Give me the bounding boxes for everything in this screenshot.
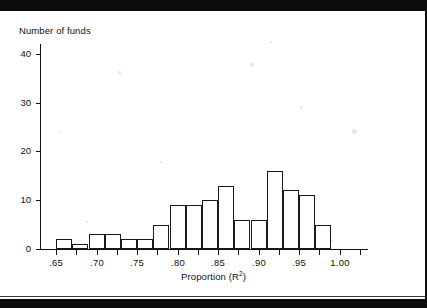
- x-tick-.85: [218, 250, 219, 255]
- histogram-bar: [202, 200, 218, 249]
- x-minor-tick-3: [198, 250, 199, 255]
- paper-speck-3: [160, 161, 162, 163]
- histogram-bar: [283, 190, 299, 249]
- y-tick-40: [36, 54, 40, 55]
- histogram-bar: [234, 220, 250, 249]
- y-tick-label-0: 0: [9, 243, 31, 254]
- y-tick-label-40: 40: [9, 48, 31, 59]
- histogram-bar: [56, 239, 72, 249]
- histogram-bar: [137, 239, 153, 249]
- x-tick-label-.90: .90: [244, 257, 274, 268]
- histogram-bar: [89, 234, 105, 249]
- histogram-bar: [315, 225, 331, 249]
- x-minor-tick-1: [117, 250, 118, 255]
- x-tick-label-.80: .80: [163, 257, 193, 268]
- y-tick-label-10: 10: [9, 194, 31, 205]
- histogram-bar: [299, 195, 315, 249]
- x-tick-label-.70: .70: [82, 257, 112, 268]
- y-tick-10: [36, 200, 40, 201]
- histogram-screenshot: Number of funds 010203040.65.70.75.80.85…: [0, 0, 427, 308]
- y-tick-label-30: 30: [9, 97, 31, 108]
- x-tick-label-.95: .95: [284, 257, 314, 268]
- x-minor-tick-5: [279, 250, 280, 255]
- x-tick-.70: [97, 250, 98, 255]
- x-minor-tick-7: [360, 250, 361, 255]
- y-tick-0: [36, 249, 40, 250]
- histogram-bar: [218, 186, 234, 249]
- histogram-bar: [72, 244, 88, 249]
- x-tick-.95: [299, 250, 300, 255]
- x-axis-title: Proportion (R2): [0, 271, 427, 282]
- x-axis-title-text: Proportion (R: [181, 271, 239, 282]
- x-tick-label-.65: .65: [41, 257, 71, 268]
- histogram-bar: [170, 205, 186, 249]
- x-tick-.75: [137, 250, 138, 255]
- figure-area: Number of funds 010203040.65.70.75.80.85…: [0, 11, 427, 299]
- paper-speck-0: [118, 71, 121, 74]
- y-tick-30: [36, 103, 40, 104]
- x-tick-1.00: [340, 250, 341, 255]
- x-tick-label-1.00: 1.00: [325, 257, 355, 268]
- x-minor-tick-2: [157, 250, 158, 255]
- plot-area: 010203040.65.70.75.80.85.90.951.00: [0, 11, 427, 299]
- y-tick-20: [36, 151, 40, 152]
- x-tick-.65: [56, 250, 57, 255]
- bottom-black-band: [0, 299, 427, 308]
- top-black-band: [0, 0, 427, 11]
- paper-speck-4: [352, 129, 357, 134]
- x-axis-title-close: ): [243, 271, 246, 282]
- x-minor-tick-0: [76, 250, 77, 255]
- paper-speck-1: [250, 63, 254, 67]
- x-tick-label-.75: .75: [122, 257, 152, 268]
- y-tick-label-20: 20: [9, 145, 31, 156]
- histogram-bar: [105, 234, 121, 249]
- x-minor-tick-6: [319, 250, 320, 255]
- paper-speck-8: [270, 41, 272, 43]
- histogram-bar: [267, 171, 283, 249]
- histogram-bar: [251, 220, 267, 249]
- paper-speck-6: [86, 221, 88, 223]
- x-minor-tick-4: [238, 250, 239, 255]
- histogram-bar: [121, 239, 137, 249]
- paper-speck-2: [300, 106, 303, 109]
- x-tick-label-.85: .85: [203, 257, 233, 268]
- paper-speck-9: [60, 131, 62, 133]
- x-tick-.80: [178, 250, 179, 255]
- x-tick-.90: [259, 250, 260, 255]
- y-axis-line: [40, 44, 41, 250]
- bottom-hairline-rule: [0, 296, 427, 297]
- histogram-bar: [153, 225, 169, 249]
- histogram-bar: [186, 205, 202, 249]
